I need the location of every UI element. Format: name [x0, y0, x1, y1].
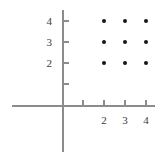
data-point [144, 61, 148, 65]
y-axis-tick-label: 2 [38, 58, 52, 69]
y-axis-tick [64, 20, 69, 21]
coordinate-plane-chart: 234 234 [0, 0, 165, 158]
data-point [144, 19, 148, 23]
data-point [123, 19, 127, 23]
data-point [102, 61, 106, 65]
y-axis-tick [64, 62, 69, 63]
data-point [123, 40, 127, 44]
x-axis-tick [103, 100, 104, 105]
data-point [144, 40, 148, 44]
x-axis-tick-label: 2 [97, 115, 111, 126]
y-axis-line [62, 10, 64, 152]
x-axis-tick [82, 100, 83, 105]
x-axis-line [12, 105, 155, 107]
data-point [102, 19, 106, 23]
x-axis-tick-label: 4 [139, 115, 153, 126]
y-axis-tick-label: 3 [38, 37, 52, 48]
y-axis-tick-label: 4 [38, 16, 52, 27]
y-axis-tick [64, 83, 69, 84]
data-point [123, 61, 127, 65]
x-axis-tick-label: 3 [118, 115, 132, 126]
y-axis-tick [64, 41, 69, 42]
x-axis-tick [124, 100, 125, 105]
data-point [102, 40, 106, 44]
x-axis-tick [145, 100, 146, 105]
